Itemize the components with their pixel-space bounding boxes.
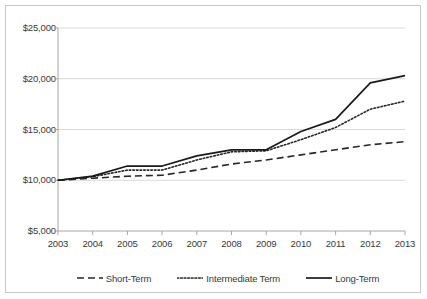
legend-item-intermediate-term: Intermediate Term bbox=[177, 273, 280, 284]
axis-tickmarks bbox=[54, 28, 405, 235]
series-lines bbox=[58, 76, 405, 181]
legend-item-long-term: Long-Term bbox=[306, 273, 379, 284]
series-line-long-term bbox=[58, 76, 405, 181]
legend-swatch-solid-line-icon bbox=[306, 274, 332, 282]
legend-item-short-term: Short-Term bbox=[77, 273, 151, 284]
line-chart-plot bbox=[0, 0, 427, 299]
chart-legend: Short-TermIntermediate TermLong-Term bbox=[58, 270, 398, 286]
legend-label: Long-Term bbox=[335, 273, 379, 284]
series-line-short-term bbox=[58, 142, 405, 181]
legend-label: Short-Term bbox=[106, 273, 151, 284]
legend-swatch-dashed-line-icon bbox=[77, 274, 103, 282]
legend-swatch-dotted-line-icon bbox=[177, 274, 203, 282]
legend-label: Intermediate Term bbox=[206, 273, 280, 284]
series-line-intermediate-term bbox=[58, 101, 405, 180]
gridlines bbox=[58, 28, 405, 231]
